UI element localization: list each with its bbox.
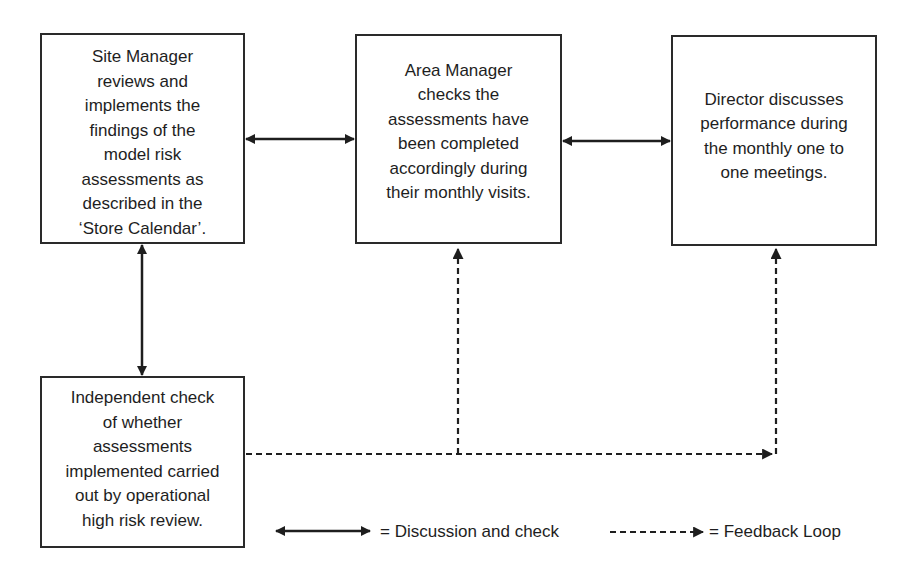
box-text-line: Area Manager [405,59,513,84]
box-text-line: performance during [700,112,847,137]
box-text-line: Director discusses [705,88,844,113]
box-text-line: of whether [103,411,182,436]
box-text-line: their monthly visits. [386,181,531,206]
box-text-line: implemented carried [65,460,219,485]
box-text-line: reviews and [97,70,188,95]
box-text-line: assessments as [82,168,204,193]
box-text-line: Independent check [71,386,215,411]
box-text-line: model risk [104,143,181,168]
box-text-line: findings of the [90,119,196,144]
box-text-line: one meetings. [721,161,828,186]
box-text-line: out by operational [75,484,210,509]
box-text-line: accordingly during [390,157,528,182]
box-text-line: high risk review. [82,509,203,534]
independent-check-box: Independent check of whether assessments… [40,376,245,548]
box-text-line: ‘Store Calendar’. [79,217,206,242]
site-manager-box: Site Manager reviews and implements the … [40,33,245,244]
box-text-line: assessments [93,435,192,460]
box-text-line: the monthly one to [704,137,844,162]
box-text-line: been completed [398,132,519,157]
box-text-line: described in the [82,192,202,217]
director-box: Director discusses performance during th… [671,35,877,246]
legend-feedback-label: = Feedback Loop [709,522,841,542]
box-text-line: Site Manager [92,45,193,70]
area-manager-box: Area Manager checks the assessments have… [355,34,562,244]
box-text-line: checks the [418,83,499,108]
box-text-line: assessments have [388,108,529,133]
legend-discussion-label: = Discussion and check [380,522,559,542]
box-text-line: implements the [85,94,200,119]
